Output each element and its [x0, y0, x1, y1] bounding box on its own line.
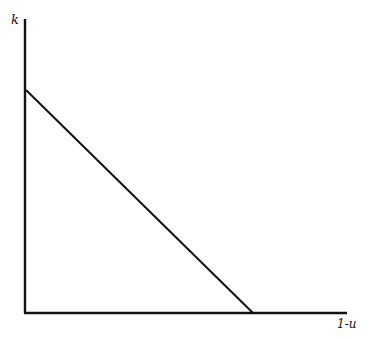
x-axis-label: 1-u: [337, 318, 356, 330]
diagram: k 1-u: [0, 0, 369, 340]
downward-sloping-line: [26, 90, 253, 313]
y-axis-label: k: [11, 13, 19, 26]
diagram-canvas: [0, 0, 369, 340]
